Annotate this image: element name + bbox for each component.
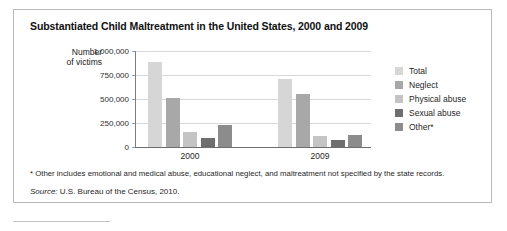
- legend-swatch-icon: [395, 81, 403, 89]
- legend-item[interactable]: Sexual abuse: [395, 106, 466, 120]
- bar-group: [148, 51, 240, 147]
- legend-swatch-icon: [395, 67, 403, 75]
- y-tick-label: 1,000,000: [93, 47, 129, 56]
- bar[interactable]: [218, 125, 232, 147]
- source-label: Source:: [30, 187, 58, 196]
- y-tick-mark: [132, 147, 135, 148]
- y-tick-label: 250,000: [100, 118, 129, 127]
- legend-item[interactable]: Physical abuse: [395, 92, 466, 106]
- legend-item[interactable]: Neglect: [395, 78, 466, 92]
- legend-item[interactable]: Total: [395, 64, 466, 78]
- y-tick-mark: [132, 99, 135, 100]
- y-tick-label: 500,000: [100, 94, 129, 103]
- footnote: * Other includes emotional and medical a…: [30, 169, 444, 178]
- figure-title: Substantiated Child Maltreatment in the …: [30, 20, 368, 32]
- bar[interactable]: [201, 138, 215, 146]
- bar[interactable]: [296, 94, 310, 147]
- bar[interactable]: [278, 79, 292, 147]
- legend-label: Physical abuse: [409, 94, 466, 104]
- bottom-rule: [13, 221, 110, 222]
- bar[interactable]: [331, 140, 345, 146]
- legend-swatch-icon: [395, 95, 403, 103]
- figure-frame: Substantiated Child Maltreatment in the …: [13, 9, 492, 203]
- chart-legend: TotalNeglectPhysical abuseSexual abuseOt…: [395, 64, 466, 134]
- legend-swatch-icon: [395, 123, 403, 131]
- source-line: Source: U.S. Bureau of the Census, 2010.: [30, 187, 179, 196]
- legend-label: Total: [409, 66, 427, 76]
- y-tick-label: 750,000: [100, 70, 129, 79]
- legend-label: Neglect: [409, 80, 438, 90]
- bar[interactable]: [166, 98, 180, 147]
- y-axis-tick-labels: 0250,000500,000750,0001,000,000: [61, 51, 129, 148]
- bar[interactable]: [348, 135, 362, 147]
- legend-label: Other*: [409, 122, 434, 132]
- x-group-label: 2009: [278, 151, 362, 161]
- x-group-label: 2000: [148, 151, 232, 161]
- bar[interactable]: [148, 62, 162, 146]
- x-axis-line: [135, 147, 371, 149]
- bar-group: [278, 51, 370, 147]
- y-tick-mark: [132, 75, 135, 76]
- legend-item[interactable]: Other*: [395, 120, 466, 134]
- bar[interactable]: [183, 132, 197, 146]
- bar[interactable]: [313, 136, 327, 147]
- source-value: U.S. Bureau of the Census, 2010.: [58, 187, 180, 196]
- plot-area: [135, 51, 371, 148]
- y-tick-mark: [132, 123, 135, 124]
- legend-label: Sexual abuse: [409, 108, 461, 118]
- y-tick-label: 0: [125, 142, 129, 151]
- legend-swatch-icon: [395, 109, 403, 117]
- y-tick-mark: [132, 51, 135, 52]
